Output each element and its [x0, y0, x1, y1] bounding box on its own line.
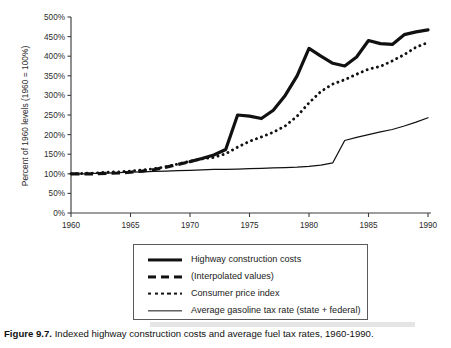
chart-plot-area: Percent of 1960 levels (1960 = 100%) 0%5…: [0, 0, 451, 232]
legend-label: (Interpolated values): [191, 272, 274, 281]
scan-artifact: [150, 322, 415, 327]
x-tick-label: 1985: [359, 221, 378, 230]
y-tick-label: 500%: [44, 13, 65, 22]
x-tick-label: 1990: [419, 221, 438, 230]
figure-caption-text: Indexed highway construction costs and a…: [55, 328, 374, 339]
y-tick-label: 450%: [44, 33, 65, 42]
figure-caption: Figure 9.7. Indexed highway construction…: [4, 328, 449, 340]
dotted-line-swatch-icon: [148, 288, 182, 300]
legend-item-highway-construction-costs: Highway construction costs: [134, 251, 367, 268]
legend-label: Average gasoline tax rate (state + feder…: [191, 306, 360, 315]
solid-thin-line-swatch-icon: [148, 305, 182, 317]
legend-label: Highway construction costs: [191, 255, 301, 264]
data-series-group: [71, 30, 428, 174]
y-tick-label: 400%: [44, 52, 65, 61]
x-axis-ticks: 1960196519701975198019851990: [62, 213, 438, 230]
y-axis-title-label: Percent of 1960 levels (1960 = 100%): [20, 46, 30, 187]
x-tick-label: 1965: [121, 221, 140, 230]
figure-caption-label: Figure 9.7.: [4, 328, 52, 339]
x-tick-label: 1960: [62, 221, 81, 230]
chart-legend: Highway construction costs (Interpolated…: [133, 244, 368, 320]
y-axis-title: Percent of 1960 levels (1960 = 100%): [20, 46, 30, 187]
x-tick-label: 1975: [240, 221, 259, 230]
y-tick-label: 200%: [44, 131, 65, 140]
y-tick-label: 100%: [44, 170, 65, 179]
x-tick-label: 1980: [300, 221, 319, 230]
y-axis-ticks: 0%50%100%150%200%250%300%350%400%450%500…: [44, 13, 71, 218]
figure-container: Percent of 1960 levels (1960 = 100%) 0%5…: [0, 0, 451, 348]
solid-thick-line-swatch-icon: [148, 254, 182, 266]
line-chart: Percent of 1960 levels (1960 = 100%) 0%5…: [0, 0, 451, 232]
y-tick-label: 350%: [44, 72, 65, 81]
y-tick-label: 50%: [49, 189, 65, 198]
y-tick-label: 150%: [44, 150, 65, 159]
series-line: [71, 118, 428, 174]
legend-label: Consumer price index: [191, 289, 279, 298]
legend-item-average-gasoline-tax-rate: Average gasoline tax rate (state + feder…: [134, 302, 367, 319]
x-tick-label: 1970: [181, 221, 200, 230]
y-tick-label: 300%: [44, 91, 65, 100]
series-line: [71, 42, 428, 173]
y-tick-label: 0%: [53, 209, 65, 218]
legend-item-consumer-price-index: Consumer price index: [134, 285, 367, 302]
series-line: [190, 30, 428, 162]
legend-item-interpolated-values: (Interpolated values): [134, 268, 367, 285]
dashed-line-swatch-icon: [148, 271, 182, 283]
y-tick-label: 250%: [44, 111, 65, 120]
